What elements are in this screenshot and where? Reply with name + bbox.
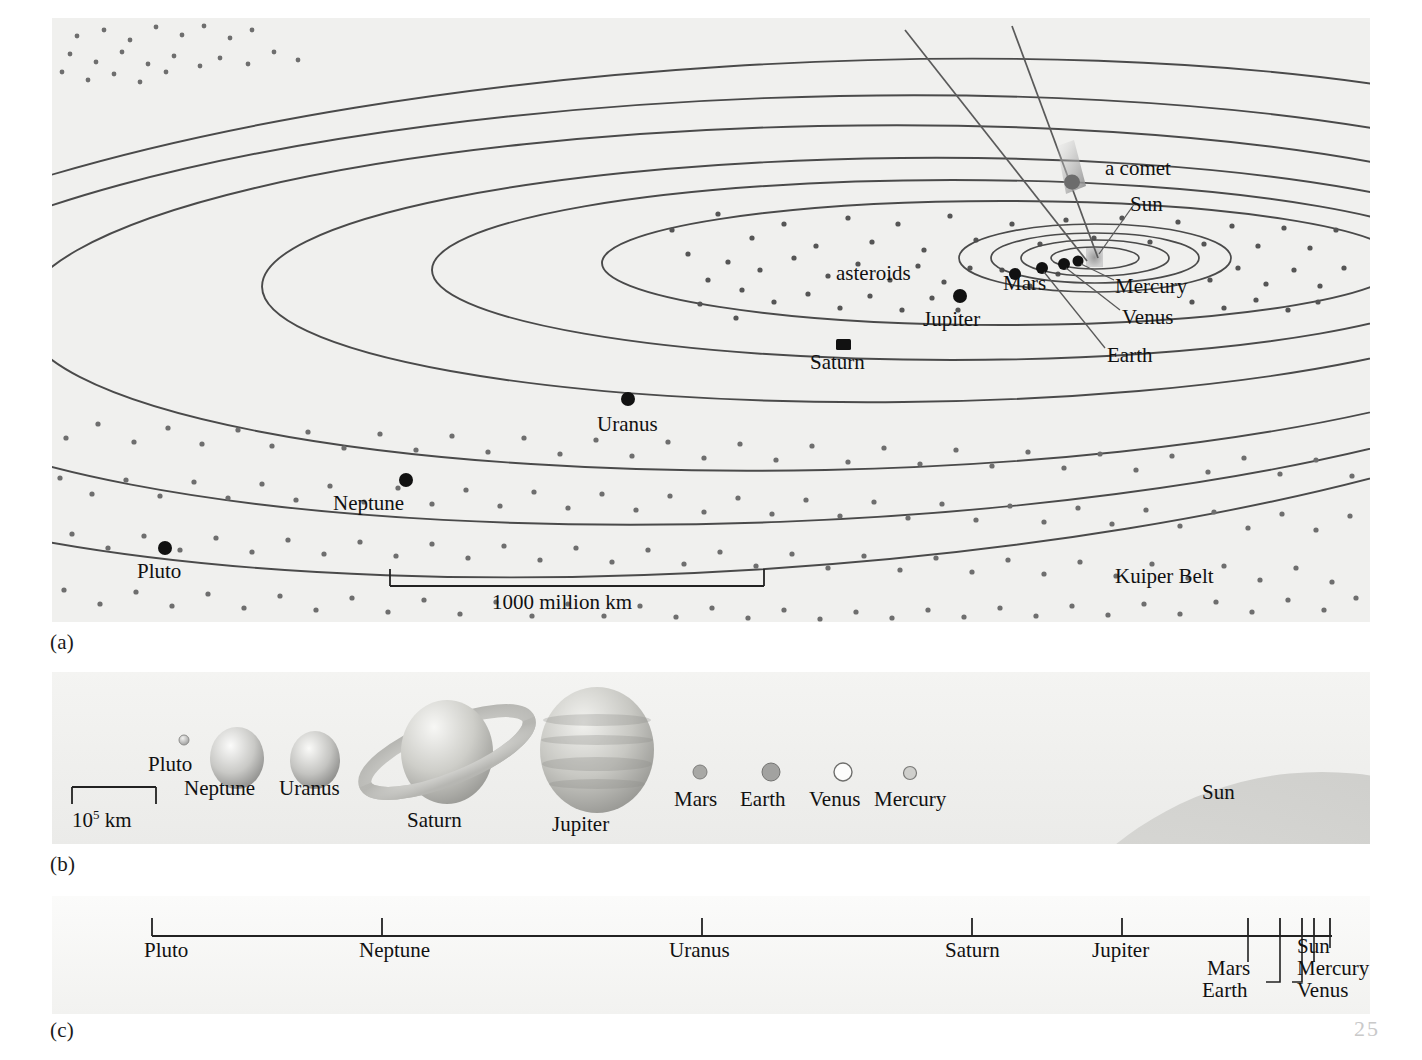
label-c-pluto: Pluto: [144, 940, 188, 961]
marker-jupiter: [953, 289, 967, 303]
label-a-asteroids: asteroids: [836, 263, 911, 284]
marker-saturn: [836, 339, 851, 350]
body-mercury: [904, 767, 917, 780]
label-a-uranus: Uranus: [597, 414, 658, 435]
panel-caption-b: (b): [50, 852, 75, 877]
panel-caption-a: (a): [50, 630, 74, 655]
leader-venus: [1066, 268, 1120, 310]
panel-b-graphic: [52, 672, 1370, 844]
label-b-mars: Mars: [674, 789, 717, 810]
label-c-sun: Sun: [1297, 936, 1330, 957]
label-c-saturn: Saturn: [945, 940, 1000, 961]
label-b-sun: Sun: [1202, 782, 1235, 803]
scale-unit: km: [100, 808, 132, 832]
label-a-mars: Mars: [1003, 273, 1046, 294]
kuiper-belt-field: [57, 421, 1358, 621]
leader-earth-drop: [1266, 936, 1280, 982]
label-b-uranus: Uranus: [279, 778, 340, 799]
body-venus: [834, 763, 852, 781]
panel-b-sizes: Pluto Neptune Uranus Saturn Jupiter Mars…: [52, 672, 1370, 844]
label-a-scale-bar: 1000 million km: [492, 592, 632, 613]
label-b-venus: Venus: [809, 789, 860, 810]
label-a-mercury: Mercury: [1115, 276, 1187, 297]
page-number: 25: [1354, 1016, 1380, 1042]
panel-caption-c: (c): [50, 1018, 74, 1043]
label-c-uranus: Uranus: [669, 940, 730, 961]
label-a-jupiter: Jupiter: [923, 309, 980, 330]
scale-mantissa: 10: [72, 808, 93, 832]
label-a-comet: a comet: [1105, 158, 1171, 179]
marker-venus: [1058, 258, 1070, 270]
label-c-venus: Venus: [1297, 980, 1348, 1001]
orbit-asteroid-belt: [602, 201, 1370, 325]
label-b-mercury: Mercury: [874, 789, 946, 810]
planet-markers: [158, 256, 1084, 556]
body-sun: [992, 772, 1370, 844]
solar-system-figure: a comet Sun Mercury Venus Earth Mars ast…: [0, 0, 1422, 1060]
label-c-mercury: Mercury: [1297, 958, 1369, 979]
label-c-earth: Earth: [1202, 980, 1247, 1001]
body-jupiter: [540, 687, 654, 813]
panel-a-orbits: a comet Sun Mercury Venus Earth Mars ast…: [52, 18, 1370, 622]
label-a-venus: Venus: [1122, 307, 1173, 328]
label-a-pluto: Pluto: [137, 561, 181, 582]
label-a-earth: Earth: [1107, 345, 1152, 366]
label-c-neptune: Neptune: [359, 940, 430, 961]
scale-bar-b: [72, 787, 156, 804]
marker-pluto: [158, 541, 172, 555]
label-c-mars: Mars: [1207, 958, 1250, 979]
label-b-pluto: Pluto: [148, 754, 192, 775]
label-a-sun: Sun: [1130, 194, 1163, 215]
label-c-jupiter: Jupiter: [1092, 940, 1149, 961]
kuiper-belt-dots: [60, 24, 301, 85]
panel-c-distances: Pluto Neptune Uranus Saturn Jupiter Mars…: [52, 896, 1370, 1014]
label-b-jupiter: Jupiter: [552, 814, 609, 835]
body-pluto: [179, 735, 189, 745]
label-b-scale-bar: 105 km: [72, 808, 132, 831]
body-mars: [693, 765, 707, 779]
distance-axis: [152, 918, 1332, 936]
label-a-neptune: Neptune: [333, 493, 404, 514]
comet: [1057, 140, 1086, 194]
comet-head: [1064, 175, 1080, 190]
label-b-earth: Earth: [740, 789, 785, 810]
body-earth: [762, 763, 780, 781]
marker-neptune: [399, 473, 413, 487]
label-a-saturn: Saturn: [810, 352, 865, 373]
asteroid-belt-dots: [669, 211, 1346, 320]
marker-uranus: [621, 392, 635, 406]
body-saturn: [355, 694, 538, 810]
label-a-kuiper-belt: Kuiper Belt: [1115, 566, 1214, 587]
label-b-neptune: Neptune: [184, 778, 255, 799]
label-b-saturn: Saturn: [407, 810, 462, 831]
